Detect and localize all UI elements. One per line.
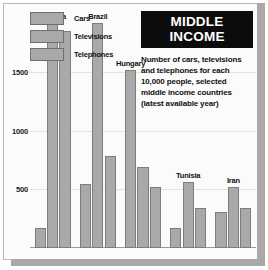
chart-subtitle-line: and telephones for each xyxy=(141,65,253,76)
chart-subtitle-line: 10,000 people, selected xyxy=(141,76,253,87)
legend-item-cars: Cars xyxy=(30,12,113,25)
title-block: MIDDLE INCOME Number of cars, television… xyxy=(141,11,253,109)
bar-iran-telephones xyxy=(240,208,251,248)
legend: Cars Televisions Telephones xyxy=(30,12,113,66)
bar-tunisia-telephones xyxy=(195,208,206,248)
y-axis-tick-label: 1000 xyxy=(12,126,28,135)
chart-subtitle-line: Number of cars, televisions xyxy=(141,54,253,65)
legend-swatch-telephones xyxy=(30,48,64,61)
legend-item-telephones: Telephones xyxy=(30,48,113,61)
legend-swatch-televisions xyxy=(30,30,64,43)
legend-swatch-cars xyxy=(30,12,64,25)
bar-tunisia-televisions xyxy=(183,182,194,248)
chart-subtitle-line: (latest available year) xyxy=(141,98,253,109)
legend-item-televisions: Televisions xyxy=(30,30,113,43)
chart-figure: 50010001500 S.KoreaBrazilHungaryTunisiaI… xyxy=(0,0,268,270)
y-axis: 50010001500 xyxy=(0,8,28,248)
bottom-shadow-strip xyxy=(11,259,265,266)
bar-tunisia-cars xyxy=(170,228,181,248)
bar-hungary-cars xyxy=(125,70,136,248)
bar-hungary-telephones xyxy=(150,187,161,248)
y-axis-tick-label: 500 xyxy=(16,185,28,194)
legend-label-telephones: Telephones xyxy=(74,50,113,59)
bar-hungary-televisions xyxy=(137,167,148,248)
right-shadow-strip xyxy=(257,3,265,266)
category-label-tunisia: Tunisia xyxy=(176,171,200,180)
bar-skorea-cars xyxy=(35,228,46,248)
bar-iran-cars xyxy=(215,212,226,248)
legend-label-televisions: Televisions xyxy=(74,32,112,41)
legend-label-cars: Cars xyxy=(74,14,90,23)
bar-brazil-cars xyxy=(80,184,91,248)
chart-title: MIDDLE INCOME xyxy=(141,11,253,48)
category-label-iran: Iran xyxy=(227,176,240,185)
y-axis-tick-label: 1500 xyxy=(12,68,28,77)
bar-iran-televisions xyxy=(228,187,239,248)
chart-subtitle: Number of cars, televisionsand telephone… xyxy=(141,54,253,109)
chart-subtitle-line: middle income countries xyxy=(141,87,253,98)
bar-brazil-telephones xyxy=(105,156,116,248)
